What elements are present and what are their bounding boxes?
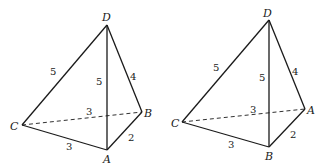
edge-label-CD: 5 — [213, 62, 219, 73]
edge-label-AD: 4 — [292, 66, 298, 77]
vertex-label-C: C — [10, 120, 19, 133]
right-tetrahedron: D A C B 5 5 4 3 3 2 — [171, 7, 315, 163]
vertex-label-B: B — [264, 150, 273, 163]
edge-label-AB: 2 — [128, 132, 134, 143]
edge-CA — [22, 125, 107, 150]
vertex-label-A: A — [102, 153, 111, 166]
edge-label-CB: 3 — [228, 139, 234, 150]
edge-label-BD: 4 — [130, 71, 136, 82]
edge-DC — [22, 25, 107, 125]
edge-DB — [107, 25, 142, 112]
diagram-canvas: D B C A 5 5 4 3 3 2 D A C B 5 5 4 3 3 2 — [0, 0, 317, 168]
edge-label-CB: 3 — [86, 106, 92, 117]
edge-label-BD: 5 — [259, 72, 265, 83]
vertex-label-D: D — [101, 11, 111, 24]
edge-label-CA: 3 — [250, 104, 256, 115]
vertex-label-A: A — [306, 104, 315, 117]
left-tetrahedron: D B C A 5 5 4 3 3 2 — [10, 11, 152, 166]
hidden-edge-CA — [182, 109, 305, 122]
edge-DA — [269, 20, 305, 109]
vertex-label-D: D — [262, 7, 272, 20]
vertex-label-B: B — [143, 107, 152, 120]
edge-label-BA: 2 — [290, 129, 296, 140]
edge-CB — [182, 122, 269, 147]
edge-AB — [107, 112, 142, 150]
vertex-label-C: C — [171, 117, 180, 130]
edge-label-CA: 3 — [66, 141, 72, 152]
edge-label-CD: 5 — [50, 66, 56, 77]
edge-label-AD: 5 — [96, 76, 102, 87]
edge-BA — [269, 109, 305, 147]
hidden-edge-CB — [22, 112, 142, 125]
